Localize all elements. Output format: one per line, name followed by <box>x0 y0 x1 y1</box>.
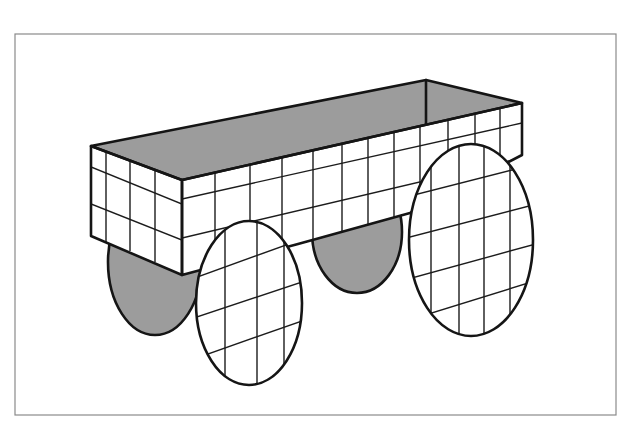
wagon-illustration <box>0 0 629 430</box>
